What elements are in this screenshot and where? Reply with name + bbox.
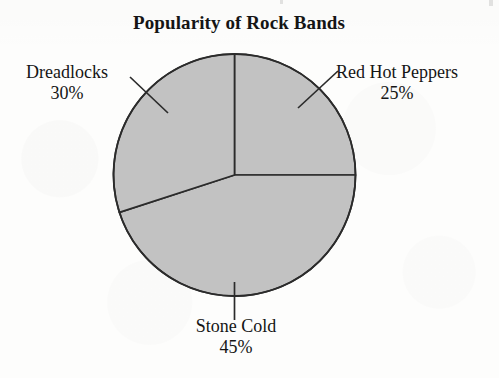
slice-label-stone-cold-value: 45%: [176, 337, 296, 358]
slice-label-dreadlocks-value: 30%: [26, 83, 108, 104]
slice-label-dreadlocks: Dreadlocks 30%: [26, 62, 108, 104]
slice-label-stone-cold: Stone Cold 45%: [176, 316, 296, 358]
slice-label-red-hot-peppers-name: Red Hot Peppers: [336, 62, 458, 83]
slice-label-stone-cold-name: Stone Cold: [176, 316, 296, 337]
slice-label-dreadlocks-name: Dreadlocks: [26, 62, 108, 83]
pie-chart-figure: Popularity of Rock Bands Red Hot Peppers…: [0, 0, 499, 378]
slice-label-red-hot-peppers-value: 25%: [336, 83, 458, 104]
slice-label-red-hot-peppers: Red Hot Peppers 25%: [336, 62, 458, 104]
